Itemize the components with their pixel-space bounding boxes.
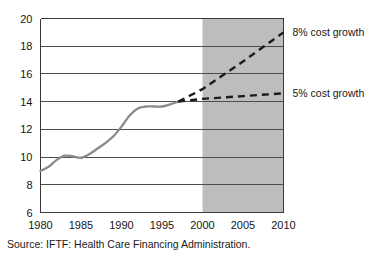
y-tick-label-6: 6 xyxy=(26,207,32,219)
x-tick-label-2010: 2010 xyxy=(271,219,295,231)
x-axis-tick-labels: 1980198519901995200020052010 xyxy=(28,219,295,231)
series-annotations: 8% cost growth5% cost growth xyxy=(293,26,365,99)
health-cost-chart-figure: 68101214161820 1980198519901995200020052… xyxy=(0,0,382,256)
y-tick-label-10: 10 xyxy=(20,151,32,163)
x-tick-label-2005: 2005 xyxy=(231,219,255,231)
annotation-5-cost-growth: 5% cost growth xyxy=(293,87,365,99)
y-tick-label-20: 20 xyxy=(20,13,32,25)
annotation-8-cost-growth: 8% cost growth xyxy=(293,26,365,38)
y-tick-label-18: 18 xyxy=(20,40,32,52)
y-tick-label-16: 16 xyxy=(20,68,32,80)
forecast-shaded-region xyxy=(203,19,284,213)
source-note: Source: IFTF: Health Care Financing Admi… xyxy=(7,238,250,250)
x-tick-label-1990: 1990 xyxy=(109,219,133,231)
chart-plot-area: 68101214161820 1980198519901995200020052… xyxy=(0,0,382,232)
x-tick-label-1995: 1995 xyxy=(150,219,174,231)
x-tick-label-2000: 2000 xyxy=(190,219,214,231)
y-axis-tick-labels: 68101214161820 xyxy=(20,13,32,219)
y-tick-label-8: 8 xyxy=(26,179,32,191)
y-tick-label-12: 12 xyxy=(20,123,32,135)
y-tick-label-14: 14 xyxy=(20,96,32,108)
x-tick-label-1980: 1980 xyxy=(28,219,52,231)
x-tick-label-1985: 1985 xyxy=(69,219,93,231)
plot-background xyxy=(41,19,284,213)
